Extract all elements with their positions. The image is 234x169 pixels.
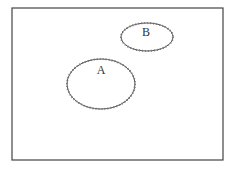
- set-b: B: [121, 23, 173, 51]
- universe-rectangle: [12, 8, 223, 160]
- set-b-label: B: [142, 25, 150, 39]
- venn-diagram: A B: [0, 0, 234, 169]
- set-a-label: A: [97, 63, 106, 77]
- set-a: A: [67, 59, 135, 109]
